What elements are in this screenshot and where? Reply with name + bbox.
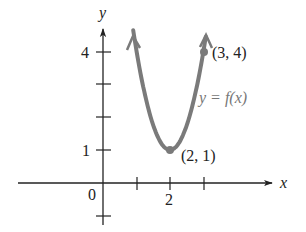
curve-label: y = f(x) — [197, 89, 247, 107]
vertex-point — [166, 146, 174, 154]
graph-canvas: y x 0 2 1 4 (3, 4) (2, 1) y = f(x) — [0, 0, 306, 232]
origin-label: 0 — [88, 186, 96, 203]
y-axis-label: y — [97, 4, 107, 22]
function-graph-figure: y x 0 2 1 4 (3, 4) (2, 1) y = f(x) — [0, 0, 306, 232]
x-axis-label: x — [279, 174, 287, 191]
x-axis — [18, 177, 272, 190]
y-axis — [96, 29, 111, 225]
top-point — [200, 48, 208, 56]
point-vertex-label: (2, 1) — [181, 147, 216, 165]
point-top-label: (3, 4) — [212, 44, 247, 62]
x-tick-label-2: 2 — [165, 191, 173, 208]
y-tick-label-4: 4 — [81, 44, 89, 61]
y-tick-label-1: 1 — [82, 142, 90, 159]
